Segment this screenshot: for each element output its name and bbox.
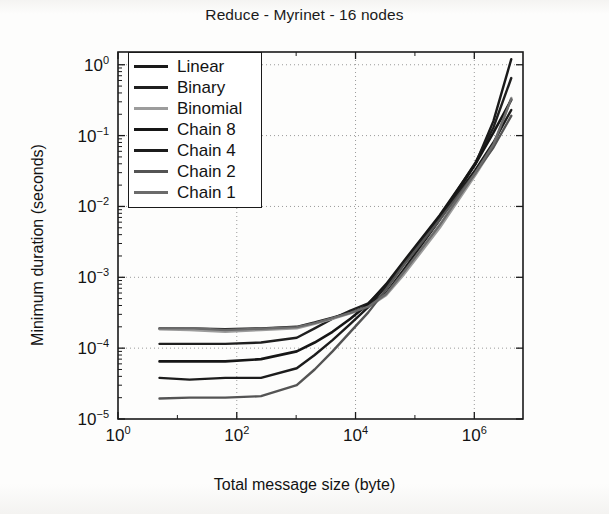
legend-item-label: Binary xyxy=(177,79,225,96)
legend-item-label: Chain 1 xyxy=(177,184,236,201)
x-tick-label: 100 xyxy=(105,427,130,444)
legend-line-swatch xyxy=(134,128,168,131)
legend-line-swatch xyxy=(134,170,168,173)
legend-item-binary[interactable]: Binary xyxy=(134,77,256,98)
y-tick-label: 10−2 xyxy=(78,198,109,215)
legend-item-label: Linear xyxy=(177,58,224,75)
figure-canvas: Reduce - Myrinet - 16 nodes 10010−110−21… xyxy=(0,0,609,514)
y-axis-label: Minimum duration (seconds) xyxy=(29,95,47,395)
y-tick-label: 10−1 xyxy=(78,127,109,144)
legend-item-chain-4[interactable]: Chain 4 xyxy=(134,140,256,161)
legend-item-label: Chain 8 xyxy=(177,121,236,138)
y-tick-label: 10−3 xyxy=(78,269,109,286)
y-tick-label: 100 xyxy=(84,56,109,73)
x-tick-label: 106 xyxy=(462,427,487,444)
legend-item-linear[interactable]: Linear xyxy=(134,56,256,77)
legend-line-swatch xyxy=(134,107,168,110)
chart-legend: LinearBinaryBinomialChain 8Chain 4Chain … xyxy=(128,52,262,208)
legend-line-swatch xyxy=(134,191,168,194)
legend-item-chain-8[interactable]: Chain 8 xyxy=(134,119,256,140)
x-tick-label: 104 xyxy=(343,427,368,444)
x-tick-label: 102 xyxy=(224,427,249,444)
legend-item-label: Chain 2 xyxy=(177,163,236,180)
legend-item-chain-2[interactable]: Chain 2 xyxy=(134,161,256,182)
y-tick-label: 10−5 xyxy=(78,411,109,428)
legend-item-label: Chain 4 xyxy=(177,142,236,159)
plot-area xyxy=(0,0,609,514)
legend-item-label: Binomial xyxy=(177,100,242,117)
legend-item-chain-1[interactable]: Chain 1 xyxy=(134,182,256,203)
x-axis-label: Total message size (byte) xyxy=(0,476,609,494)
legend-line-swatch xyxy=(134,65,168,68)
legend-line-swatch xyxy=(134,149,168,152)
y-tick-label: 10−4 xyxy=(78,340,109,357)
legend-item-binomial[interactable]: Binomial xyxy=(134,98,256,119)
legend-line-swatch xyxy=(134,86,168,89)
